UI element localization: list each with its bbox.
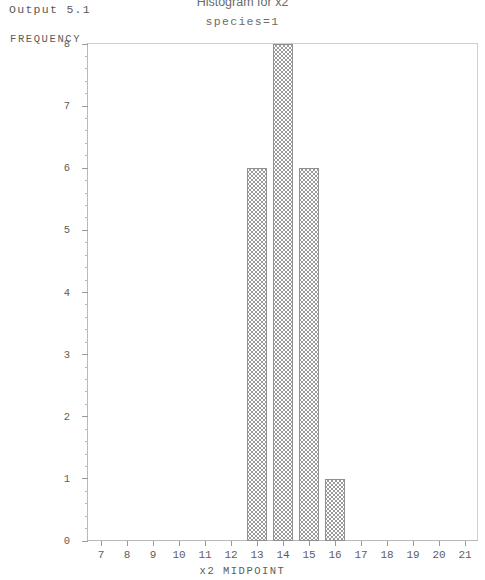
y-tick-label: 5 bbox=[64, 224, 70, 236]
histogram-bar bbox=[299, 168, 318, 541]
x-tick-label: 9 bbox=[150, 549, 157, 561]
x-tick-label: 15 bbox=[302, 549, 315, 561]
x-tick-label: 8 bbox=[124, 549, 131, 561]
x-tick-label: 12 bbox=[224, 549, 237, 561]
y-tick-label: 7 bbox=[64, 100, 70, 112]
y-axis-ticks bbox=[81, 44, 88, 541]
histogram-bar bbox=[273, 44, 292, 541]
x-tick-label: 17 bbox=[354, 549, 367, 561]
histogram-bar bbox=[247, 168, 266, 541]
histogram-bars bbox=[88, 44, 478, 541]
y-tick-label: 1 bbox=[64, 473, 70, 485]
x-tick-label: 16 bbox=[328, 549, 341, 561]
y-tick-label: 0 bbox=[64, 535, 70, 547]
y-tick-label: 3 bbox=[64, 349, 70, 361]
x-tick-label: 14 bbox=[276, 549, 289, 561]
x-tick-label: 10 bbox=[172, 549, 185, 561]
x-tick-label: 19 bbox=[406, 549, 419, 561]
x-tick-label: 21 bbox=[458, 549, 471, 561]
x-tick-label: 11 bbox=[198, 549, 211, 561]
x-tick-label: 20 bbox=[432, 549, 445, 561]
y-tick-label: 4 bbox=[64, 287, 70, 299]
histogram-screenshot: Output 5.1 Histogram for x2 species=1 FR… bbox=[0, 0, 485, 580]
x-tick-label: 18 bbox=[380, 549, 393, 561]
y-axis-tick-labels: 012345678 bbox=[0, 44, 81, 541]
histogram-bar bbox=[325, 479, 344, 541]
y-tick-label: 6 bbox=[64, 162, 70, 174]
y-tick-label: 8 bbox=[64, 38, 70, 50]
x-tick-label: 13 bbox=[250, 549, 263, 561]
x-tick-label: 7 bbox=[98, 549, 105, 561]
y-tick-label: 2 bbox=[64, 411, 70, 423]
